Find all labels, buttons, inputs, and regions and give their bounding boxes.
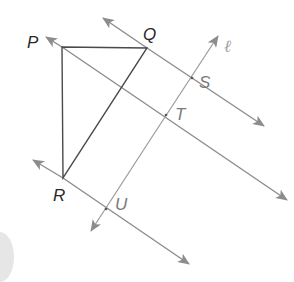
label-q: Q xyxy=(143,25,156,44)
parallel-line-through-q xyxy=(103,18,147,48)
point-t-dot xyxy=(165,114,168,117)
parallel-line-through-r xyxy=(33,160,63,178)
triangle-pqr xyxy=(62,47,147,178)
point-u-dot xyxy=(105,208,108,211)
label-u: U xyxy=(115,195,128,214)
parallel-line-through-p xyxy=(46,37,62,47)
label-p: P xyxy=(27,33,39,52)
label-transversal-l: ℓ xyxy=(224,36,231,56)
label-r: R xyxy=(53,186,65,205)
point-s-dot xyxy=(191,77,194,80)
parallel-line-through-r-ext xyxy=(63,178,189,264)
label-s: S xyxy=(199,73,211,92)
label-t: T xyxy=(175,105,187,124)
